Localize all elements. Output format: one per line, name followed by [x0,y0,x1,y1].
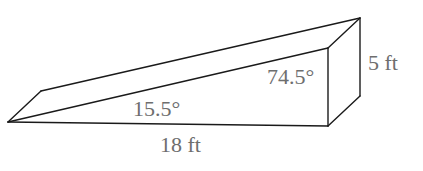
angle-right-label: 74.5° [267,64,314,89]
ramp-prism-diagram: 15.5° 74.5° 18 ft 5 ft [0,0,423,171]
angle-left-label: 15.5° [133,96,180,121]
back-apex-edge [8,91,41,122]
height-label: 5 ft [368,50,398,75]
base-length-label: 18 ft [160,132,201,157]
front-base-edge [8,122,328,126]
bottom-right-depth-edge [328,96,360,126]
top-right-depth-edge [328,18,360,48]
